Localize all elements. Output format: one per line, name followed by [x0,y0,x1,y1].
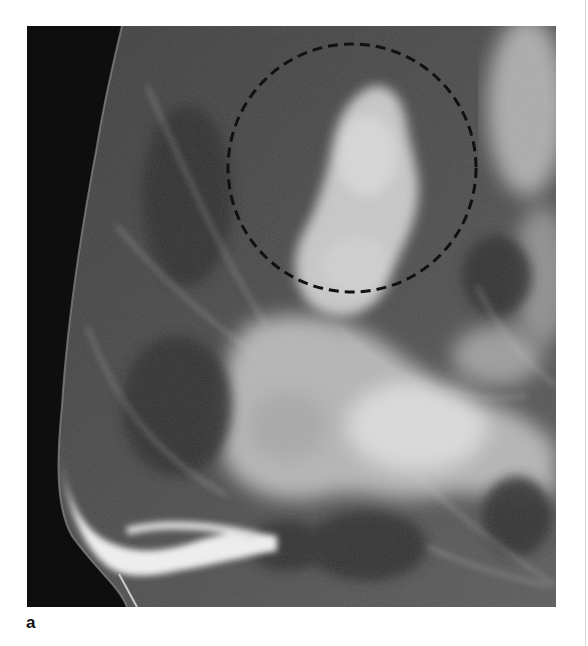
mammogram-image [27,26,556,607]
panel-label: a [26,614,35,631]
page-edge-divider [585,0,586,646]
mammogram-rendering [27,26,556,607]
